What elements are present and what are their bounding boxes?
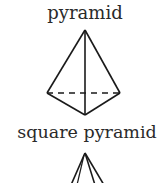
pyramid-diagram <box>0 0 162 183</box>
square-pyramid-label: square pyramid <box>6 122 162 142</box>
edge-apex-right <box>85 30 120 93</box>
edge-left-front <box>47 93 85 115</box>
edge-apex-left <box>47 30 85 93</box>
square-pyramid-figure <box>71 153 104 183</box>
edge-right-front <box>85 93 120 115</box>
pyramid-figure <box>47 30 120 115</box>
edge-apex-right <box>85 153 104 183</box>
